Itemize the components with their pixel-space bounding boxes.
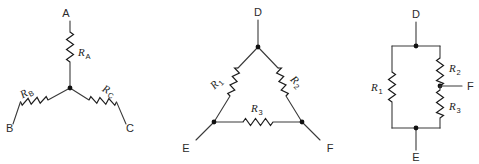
resistor-label-delta-r2: R 2: [286, 72, 305, 91]
resistor-label-ladder-r3-symbol: R: [448, 100, 456, 112]
resistor-r1-zigzag: [228, 68, 240, 96]
wire-apex-to-r1: [238, 47, 258, 68]
resistor-label-ra: R A: [77, 46, 91, 61]
wire-center-to-rb: [48, 88, 70, 100]
resistor-label-ladder-r3: R 3: [448, 100, 461, 115]
terminal-label-ladder-f: F: [467, 80, 474, 92]
resistor-label-ladder-r3-subscript: 3: [457, 106, 461, 115]
junction-node-ladder-d: [414, 44, 419, 49]
terminal-label-ladder-d: D: [412, 8, 420, 20]
resistor-label-delta-r3: R 3: [250, 102, 263, 117]
resistor-r3-zigzag: [243, 119, 273, 126]
resistor-ra-zigzag: [67, 32, 74, 62]
wire-rb-to-terminal-b: [13, 102, 21, 124]
junction-node-delta-f: [300, 120, 305, 125]
resistor-label-ladder-r2: R 2: [448, 62, 461, 77]
resistor-label-ra-symbol: R: [77, 46, 85, 58]
resistor-label-delta-r3-symbol: R: [250, 102, 258, 114]
diagram-ladder-network: D E F R 1 R 2 R 3: [370, 8, 474, 163]
resistor-label-rc: R C: [98, 82, 118, 102]
wire-r1-to-node-e: [214, 96, 230, 122]
resistor-r2-zigzag: [277, 68, 289, 96]
terminal-label-delta-d: D: [254, 6, 262, 18]
terminal-label-ladder-e: E: [412, 151, 419, 163]
wire-node-e-lead: [196, 122, 214, 140]
resistor-label-ladder-r1-symbol: R: [370, 81, 378, 93]
terminal-label-c: C: [126, 122, 134, 134]
resistor-label-delta-r3-subscript: 3: [259, 108, 263, 117]
terminal-label-delta-e: E: [182, 142, 189, 154]
figure-root: A B C R A R B R C: [0, 0, 479, 164]
wire-center-to-rc: [70, 88, 89, 100]
junction-node-delta-d: [256, 45, 261, 50]
terminal-label-b: B: [6, 122, 13, 134]
diagram-delta-network: D E F R 1 R 2 R 3: [182, 6, 333, 154]
resistor-rc-zigzag: [89, 97, 117, 106]
resistor-ladder-r1-zigzag-upper: [389, 72, 396, 102]
resistor-label-ladder-r1-subscript: 1: [379, 87, 383, 96]
wire-node-f-lead: [302, 122, 320, 140]
resistor-ladder-r2-zigzag: [437, 58, 444, 86]
junction-node-ladder-e: [414, 126, 419, 131]
diagram-wye-network: A B C R A R B R C: [6, 7, 134, 134]
resistor-label-ladder-r2-subscript: 2: [457, 68, 461, 77]
terminal-label-delta-f: F: [327, 142, 334, 154]
wire-apex-to-r2: [258, 47, 278, 68]
resistor-label-ladder-r1: R 1: [370, 81, 383, 96]
resistor-label-delta-r1: R 1: [207, 74, 226, 93]
wire-rc-to-terminal-c: [117, 102, 127, 124]
resistor-label-ra-subscript: A: [86, 52, 91, 61]
wire-r2-to-node-f: [286, 96, 302, 122]
circuit-diagram-canvas: A B C R A R B R C: [0, 0, 479, 164]
junction-node-wye-center: [68, 86, 73, 91]
resistor-label-ladder-r2-symbol: R: [448, 62, 456, 74]
junction-node-delta-e: [212, 120, 217, 125]
terminal-label-a: A: [62, 7, 70, 19]
resistor-ladder-r3-zigzag: [437, 90, 444, 118]
